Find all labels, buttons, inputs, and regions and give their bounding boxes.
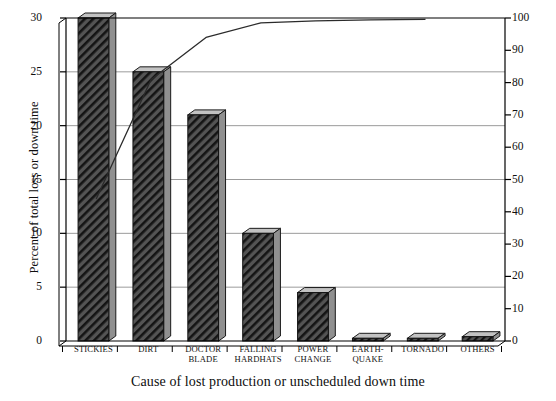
- bar: [243, 228, 281, 341]
- y-tick-label: 15: [12, 174, 42, 186]
- axes-lines: [59, 18, 505, 346]
- y2-tick-label: 70: [512, 109, 546, 121]
- axis-ticks: [60, 18, 511, 352]
- y2-tick-label: 20: [512, 270, 546, 282]
- plot-area: [0, 0, 556, 401]
- bar: [78, 13, 116, 341]
- y-tick-label: 30: [12, 12, 42, 24]
- bar: [407, 333, 445, 341]
- y2-tick-label: 80: [512, 77, 546, 89]
- y2-tick-label: 100: [512, 12, 546, 24]
- bar: [298, 288, 336, 341]
- y-tick-label: 10: [12, 227, 42, 239]
- y2-tick-label: 90: [512, 44, 546, 56]
- y2-tick-label: 50: [512, 174, 546, 186]
- y-tick-label: 20: [12, 120, 42, 132]
- y2-tick-label: 60: [512, 141, 546, 153]
- pareto-chart: Percent of total loss or down time Cummu…: [0, 0, 556, 401]
- y-tick-label: 25: [12, 66, 42, 78]
- y2-tick-label: 0: [512, 335, 546, 347]
- gridlines: [66, 72, 505, 287]
- y2-tick-label: 30: [512, 238, 546, 250]
- bar: [352, 333, 390, 341]
- bars-group: [78, 13, 500, 341]
- bar: [188, 110, 226, 341]
- y2-tick-label: 40: [512, 206, 546, 218]
- bar: [462, 332, 500, 341]
- y-tick-label: 0: [12, 335, 42, 347]
- x-category-label: OTHERS: [444, 345, 512, 355]
- y-tick-label: 5: [12, 281, 42, 293]
- y2-tick-label: 10: [512, 303, 546, 315]
